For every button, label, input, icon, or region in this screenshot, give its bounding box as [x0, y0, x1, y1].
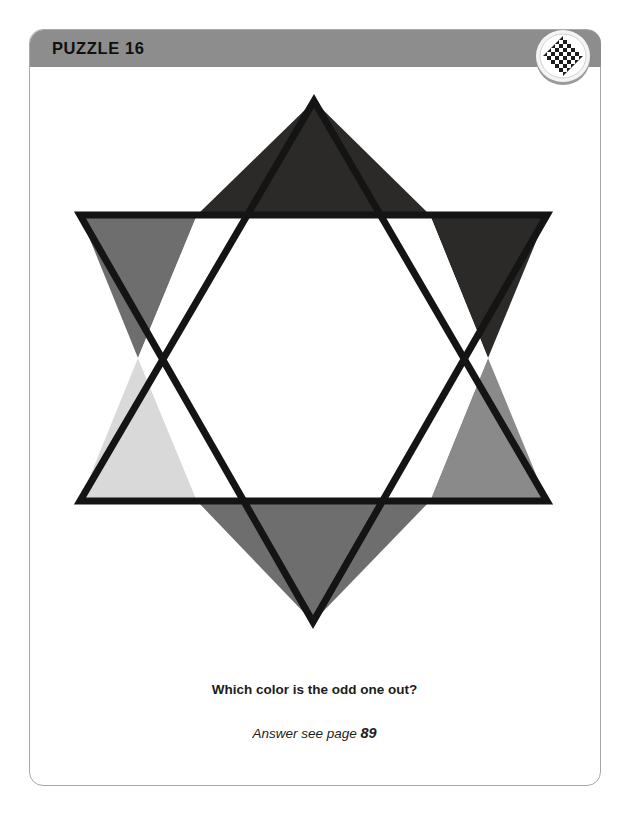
answer-page-number: 89: [360, 725, 376, 741]
puzzle-header-bar: PUZZLE 16: [30, 30, 601, 67]
star-triangle-top: [197, 101, 430, 215]
checkerboard-diamond-badge-icon: [531, 24, 595, 88]
six-pointed-star-figure: [60, 85, 570, 640]
question-prompt: Which color is the odd one out?: [0, 682, 629, 697]
page-title: PUZZLE 16: [52, 39, 145, 58]
star-inner-hexagon: [138, 215, 488, 501]
star-triangle-bottom: [197, 501, 430, 622]
answer-prefix-label: Answer see page: [252, 726, 356, 741]
answer-reference: Answer see page 89: [0, 725, 629, 741]
